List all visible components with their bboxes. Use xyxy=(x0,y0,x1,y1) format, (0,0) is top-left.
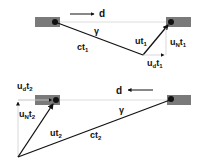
label-udt1: udt1 xyxy=(147,58,163,69)
label-ut2: ut2 xyxy=(50,128,63,139)
angle-label: γ xyxy=(94,26,99,36)
label-ut1: ut1 xyxy=(135,36,148,47)
left-point xyxy=(53,97,59,103)
label-udt2: udt2 xyxy=(17,81,33,92)
label-uNt1: uNt1 xyxy=(170,37,187,48)
top-diagram: d γ ct1 ut1 uNt1 udt1 xyxy=(35,8,191,69)
bottom-diagram: d γ udt2 uNt2 ut2 ct2 xyxy=(17,81,191,157)
velocity-diagram: d γ ct1 ut1 uNt1 udt1 d γ udt2 uN xyxy=(0,0,203,165)
label-ct1: ct1 xyxy=(77,42,89,53)
angle-label: γ xyxy=(119,105,124,115)
direction-label: d xyxy=(99,8,105,19)
vector-ct2 xyxy=(18,100,170,157)
label-ct2: ct2 xyxy=(90,130,102,141)
right-point xyxy=(168,19,174,25)
vector-ut1 xyxy=(143,25,168,55)
direction-label: d xyxy=(116,85,122,96)
label-uNt2: uNt2 xyxy=(19,109,36,120)
